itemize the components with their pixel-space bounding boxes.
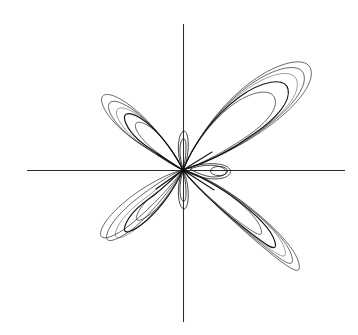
- origin-point: [182, 169, 185, 172]
- phase-portrait-figure: [0, 0, 358, 335]
- plot-canvas: [0, 0, 358, 335]
